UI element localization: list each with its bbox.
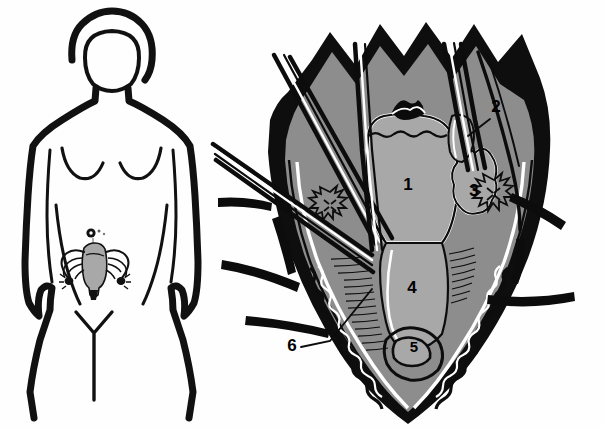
label-2: 2 [491,97,500,116]
guide-dot-b [103,233,105,235]
label-6: 6 [287,336,296,355]
label-1: 1 [403,175,412,194]
ovary-right [117,277,126,285]
illustration-canvas: 1 2 3 4 5 6 [0,0,604,428]
navel-highlight [89,231,92,234]
medical-illustration-figure: 1 2 3 4 5 6 [0,0,604,428]
label-3: 3 [469,181,478,200]
ovary-left [65,277,74,285]
guide-dot-a [98,230,101,233]
label-5: 5 [410,338,418,355]
label-4: 4 [407,278,417,297]
